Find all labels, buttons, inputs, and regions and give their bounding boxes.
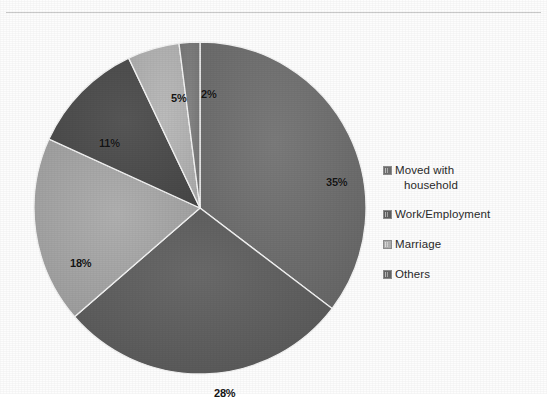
pie-slice-label-5: 5% — [171, 92, 187, 104]
pie-slice-label-6: 2% — [201, 88, 217, 100]
legend-swatch-icon — [383, 210, 392, 219]
legend-item-label: Marriage — [395, 237, 441, 252]
legend-swatch-icon — [383, 166, 392, 175]
legend-item-work-employment[interactable]: Work/Employment — [383, 207, 545, 222]
pie-slice-label-4: 11% — [99, 137, 120, 149]
legend-label-line2: household — [404, 178, 458, 193]
pie-slice-label-2: 28% — [214, 387, 235, 399]
legend-swatch-icon — [383, 240, 392, 249]
legend-item-moved-with-household[interactable]: Moved withhousehold — [383, 163, 545, 193]
pie-chart-plot-area: 35% 28% 18% 11% 5% 2% — [28, 36, 378, 386]
legend-swatch-icon — [383, 270, 392, 279]
chart-legend: Moved withhousehold Work/Employment Marr… — [383, 163, 545, 296]
pie-slice-label-1: 35% — [326, 176, 347, 188]
legend-item-label: Others — [395, 267, 430, 282]
legend-item-others[interactable]: Others — [383, 267, 545, 282]
legend-label-line1: Moved with — [395, 164, 454, 176]
legend-item-label: Moved withhousehold — [395, 163, 458, 193]
legend-item-marriage[interactable]: Marriage — [383, 237, 545, 252]
pie-slices-group — [34, 42, 366, 374]
pie-slice-label-3: 18% — [70, 257, 91, 269]
legend-item-label: Work/Employment — [395, 207, 490, 222]
page-rule-divider — [6, 12, 541, 13]
